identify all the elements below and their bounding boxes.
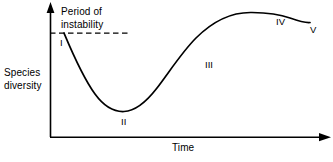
x-axis-label: Time bbox=[172, 142, 194, 154]
phase-marker-v: V bbox=[310, 24, 316, 35]
y-axis-arrowhead bbox=[47, 2, 55, 13]
species-diversity-figure: Period of instability Species diversity … bbox=[0, 0, 333, 162]
x-axis-arrowhead bbox=[319, 133, 331, 141]
phase-marker-i: I bbox=[60, 37, 63, 48]
period-of-instability-label: Period of instability bbox=[61, 6, 103, 31]
y-axis-label: Species diversity bbox=[4, 66, 42, 92]
phase-marker-iv: IV bbox=[276, 16, 285, 27]
phase-marker-ii: II bbox=[121, 116, 126, 127]
phase-marker-iii: III bbox=[205, 59, 213, 70]
